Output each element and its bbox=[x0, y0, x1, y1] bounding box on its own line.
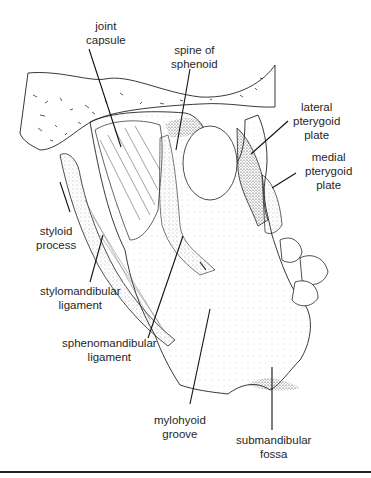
label-joint-capsule: joint capsule bbox=[86, 19, 126, 47]
label-submandibular-fossa: submandibular fossa bbox=[236, 433, 311, 461]
label-stylomandibular-ligament: stylomandibular ligament bbox=[40, 284, 121, 312]
label-medial-pterygoid-plate: medial pterygoid plate bbox=[305, 150, 352, 192]
label-spine-of-sphenoid: spine of sphenoid bbox=[171, 43, 218, 71]
bottom-rule bbox=[0, 471, 371, 473]
label-mylohyoid-groove: mylohyoid groove bbox=[154, 413, 206, 441]
label-sphenomandibular-ligament: sphenomandibular ligament bbox=[62, 336, 157, 364]
label-lateral-pterygoid-plate: lateral pterygoid plate bbox=[293, 100, 340, 142]
mandibular-notch-space bbox=[183, 126, 237, 200]
label-styloid-process: styloid process bbox=[36, 224, 76, 252]
